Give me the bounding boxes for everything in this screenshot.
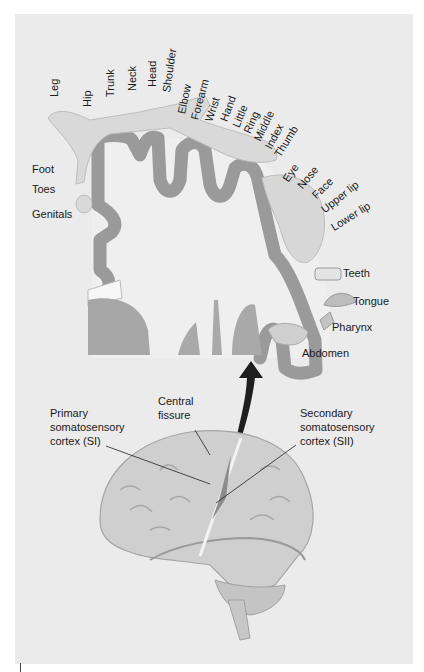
label-primary-line1: Primary bbox=[50, 406, 125, 420]
label-hip: Hip bbox=[82, 90, 93, 107]
page-margin-tick bbox=[20, 663, 21, 672]
label-secondary-somatosensory-cortex: Secondary somatosensory cortex (SII) bbox=[300, 406, 375, 448]
label-abdomen: Abdomen bbox=[302, 348, 349, 359]
label-primary-line2: somatosensory bbox=[50, 420, 125, 434]
label-tongue: Tongue bbox=[353, 296, 389, 307]
label-leg: Leg bbox=[49, 79, 60, 97]
label-toes: Toes bbox=[32, 184, 55, 195]
label-secondary-line1: Secondary bbox=[300, 406, 375, 420]
label-genitals: Genitals bbox=[32, 209, 72, 220]
label-neck: Neck bbox=[127, 66, 138, 91]
label-pharynx: Pharynx bbox=[332, 322, 372, 333]
arrow-up-icon bbox=[236, 361, 263, 442]
brain-illustration bbox=[100, 430, 313, 640]
label-foot: Foot bbox=[32, 164, 54, 175]
label-central-line2: fissure bbox=[158, 408, 193, 422]
label-head: Head bbox=[147, 61, 158, 87]
label-trunk: Trunk bbox=[105, 69, 116, 97]
label-central-fissure: Central fissure bbox=[158, 394, 193, 422]
label-teeth: Teeth bbox=[343, 268, 370, 279]
label-primary-somatosensory-cortex: Primary somatosensory cortex (SI) bbox=[50, 406, 125, 448]
label-secondary-line3: cortex (SII) bbox=[300, 434, 375, 448]
label-central-line1: Central bbox=[158, 394, 193, 408]
label-primary-line3: cortex (SI) bbox=[50, 434, 125, 448]
label-secondary-line2: somatosensory bbox=[300, 420, 375, 434]
